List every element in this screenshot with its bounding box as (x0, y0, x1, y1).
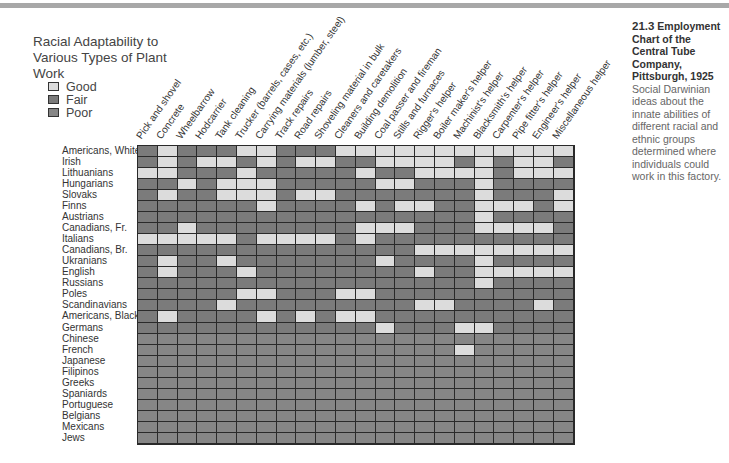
grid-cell (257, 190, 277, 201)
grid-cell (257, 223, 277, 234)
grid-cell (237, 146, 257, 157)
grid-cell (415, 190, 435, 201)
grid-cell (237, 179, 257, 190)
grid-cell (554, 323, 574, 334)
grid-cell (435, 323, 455, 334)
grid-cell (356, 190, 376, 201)
row-label: Japanese (0, 355, 130, 366)
row-label: Ukranians (0, 255, 130, 266)
grid-cell (257, 400, 277, 411)
grid-cell (138, 411, 158, 422)
fair-swatch-icon (48, 95, 59, 104)
grid-cell (475, 146, 495, 157)
grid-cell (554, 289, 574, 300)
grid-cell (158, 311, 178, 322)
grid-cell (178, 422, 198, 433)
grid-cell (534, 157, 554, 168)
grid-cell (197, 422, 217, 433)
grid-cell (257, 411, 277, 422)
grid-cell (475, 334, 495, 345)
grid-cell (554, 267, 574, 278)
grid-cell (494, 278, 514, 289)
grid-cell (296, 289, 316, 300)
grid-cell (514, 223, 534, 234)
grid-cell (494, 179, 514, 190)
grid-cell (277, 433, 297, 444)
grid-cell (415, 323, 435, 334)
grid-cell (534, 245, 554, 256)
grid-cell (158, 201, 178, 212)
grid-cell (296, 323, 316, 334)
grid-cell (296, 389, 316, 400)
grid-cell (514, 234, 534, 245)
grid-cell (475, 311, 495, 322)
grid-cell (376, 311, 396, 322)
grid-cell (395, 323, 415, 334)
grid-cell (296, 300, 316, 311)
grid-cell (395, 433, 415, 444)
grid-cell (514, 245, 534, 256)
legend-item-good: Good (48, 80, 97, 93)
grid-cell (296, 234, 316, 245)
grid-cell (336, 356, 356, 367)
grid-cell (475, 289, 495, 300)
grid-cell (158, 411, 178, 422)
grid-cell (277, 378, 297, 389)
grid-cell (296, 278, 316, 289)
grid-cell (277, 157, 297, 168)
row-label: Chinese (0, 333, 130, 344)
grid-cell (237, 323, 257, 334)
grid-cell (158, 389, 178, 400)
grid-cell (554, 190, 574, 201)
grid-cell (395, 168, 415, 179)
grid-cell (514, 433, 534, 444)
grid-cell (376, 389, 396, 400)
grid-cell (217, 433, 237, 444)
grid-cell (277, 300, 297, 311)
grid-cell (296, 223, 316, 234)
grid-cell (158, 212, 178, 223)
grid-cell (197, 389, 217, 400)
grid-cell (554, 411, 574, 422)
grid-cell (277, 367, 297, 378)
grid-cell (237, 411, 257, 422)
grid-cell (257, 334, 277, 345)
grid-cell (395, 389, 415, 400)
grid-cell (494, 212, 514, 223)
grid-cell (178, 433, 198, 444)
grid-cell (316, 146, 336, 157)
grid-cell (455, 267, 475, 278)
grid-cell (455, 345, 475, 356)
grid-cell (237, 278, 257, 289)
grid-cell (376, 278, 396, 289)
grid-cell (277, 400, 297, 411)
grid-cell (178, 157, 198, 168)
grid-cell (138, 157, 158, 168)
grid-cell (217, 256, 237, 267)
grid-cell (178, 323, 198, 334)
grid-cell (455, 168, 475, 179)
grid-cell (475, 411, 495, 422)
figure-caption: 21.3 Employment Chart of the Central Tub… (632, 20, 729, 183)
grid-cell (336, 367, 356, 378)
grid-cell (494, 234, 514, 245)
grid-cell (514, 278, 534, 289)
grid-cell (178, 212, 198, 223)
grid-cell (197, 234, 217, 245)
grid-cell (455, 245, 475, 256)
grid-cell (415, 146, 435, 157)
grid-cell (158, 234, 178, 245)
grid-cell (435, 267, 455, 278)
grid-cell (316, 300, 336, 311)
row-label: Germans (0, 322, 130, 333)
grid-cell (257, 267, 277, 278)
grid-cell (296, 201, 316, 212)
grid-cell (475, 168, 495, 179)
grid-cell (138, 267, 158, 278)
grid-cell (217, 267, 237, 278)
grid-cell (435, 256, 455, 267)
grid-cell (336, 411, 356, 422)
grid-cell (435, 411, 455, 422)
grid-cell (158, 278, 178, 289)
grid-cell (257, 168, 277, 179)
